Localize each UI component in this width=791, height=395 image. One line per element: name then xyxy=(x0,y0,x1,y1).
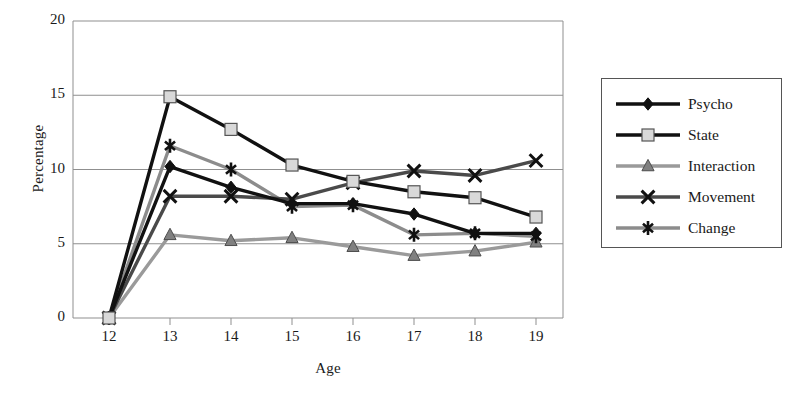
legend-label: Interaction xyxy=(688,157,755,175)
legend-label: Change xyxy=(688,219,735,237)
data-point-square xyxy=(286,159,298,171)
x-tick-label: 13 xyxy=(150,328,190,345)
legend-swatch-asterisk-icon xyxy=(612,215,684,241)
series-interaction xyxy=(103,228,542,323)
chart-figure: Percentage Age 05101520 1213141516171819… xyxy=(0,0,791,395)
data-point-square xyxy=(408,186,420,198)
legend-item-psycho[interactable]: Psycho xyxy=(602,87,781,121)
data-point-square xyxy=(642,129,654,141)
data-point-square xyxy=(347,175,359,187)
x-tick-label: 19 xyxy=(516,328,556,345)
data-point-square xyxy=(225,123,237,135)
x-tick-label: 16 xyxy=(333,328,373,345)
y-tick-label: 20 xyxy=(25,11,65,28)
legend-swatch-square-icon xyxy=(612,122,684,148)
legend-item-interaction[interactable]: Interaction xyxy=(602,149,781,183)
data-point-square xyxy=(530,211,542,223)
x-axis-ticks xyxy=(109,318,536,325)
chart-legend: PsychoStateInteractionMovementChange xyxy=(601,78,782,248)
legend-label: Psycho xyxy=(688,95,733,113)
data-point-diamond xyxy=(409,208,419,220)
legend-item-state[interactable]: State xyxy=(602,118,781,152)
data-point-square xyxy=(469,192,481,204)
y-axis-title: Percentage xyxy=(30,99,47,219)
data-point-square xyxy=(164,91,176,103)
legend-label: State xyxy=(688,126,719,144)
legend-swatch-x-icon xyxy=(612,184,684,210)
x-tick-label: 18 xyxy=(455,328,495,345)
gridlines xyxy=(73,21,563,318)
x-axis-title: Age xyxy=(283,360,373,377)
legend-item-movement[interactable]: Movement xyxy=(602,180,781,214)
legend-item-change[interactable]: Change xyxy=(602,211,781,245)
y-tick-label: 0 xyxy=(25,308,65,325)
x-tick-label: 12 xyxy=(89,328,129,345)
series-line xyxy=(109,235,536,318)
legend-swatch-triangle-icon xyxy=(612,153,684,179)
legend-label: Movement xyxy=(688,188,755,206)
data-series-layer xyxy=(103,91,543,325)
data-point-square xyxy=(103,312,115,324)
data-point-diamond xyxy=(643,98,653,110)
legend-swatch-diamond-icon xyxy=(612,91,684,117)
y-tick-label: 10 xyxy=(25,160,65,177)
x-tick-label: 17 xyxy=(394,328,434,345)
y-tick-label: 15 xyxy=(25,85,65,102)
x-tick-label: 14 xyxy=(211,328,251,345)
x-tick-label: 15 xyxy=(272,328,312,345)
y-tick-label: 5 xyxy=(25,234,65,251)
